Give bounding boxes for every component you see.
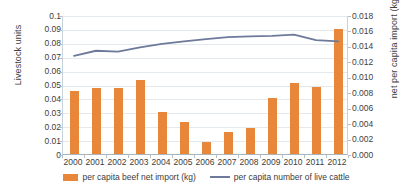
- plot-area: [62, 16, 348, 155]
- x-axis-tick-label: 2009: [260, 157, 282, 167]
- y-right-tick-label: 0.008: [352, 89, 398, 98]
- x-axis-tickmark: [216, 155, 217, 158]
- line-series: [63, 16, 349, 155]
- y-right-tick-label: 0.016: [352, 27, 398, 36]
- line-swatch-icon: [210, 176, 230, 178]
- x-axis-tick-label: 2000: [62, 157, 84, 167]
- y-left-tick-label: 0: [21, 151, 61, 160]
- legend-item-beef-import[interactable]: per capita beef net import (kg): [63, 172, 195, 182]
- x-axis-tick-label: 2006: [194, 157, 216, 167]
- x-axis-tickmark: [106, 155, 107, 158]
- x-axis-tickmark: [84, 155, 85, 158]
- x-axis-tickmark: [238, 155, 239, 158]
- y-right-tick-label: 0.018: [352, 12, 398, 21]
- y-left-tick-label: 0.07: [21, 53, 61, 62]
- y-right-tick-label: 0.014: [352, 42, 398, 51]
- y-right-tick-label: 0.012: [352, 58, 398, 67]
- y-left-tick-label: 0.01: [21, 137, 61, 146]
- legend-label-beef-import: per capita beef net import (kg): [82, 172, 195, 182]
- x-axis-tickmark: [194, 155, 195, 158]
- x-axis-tickmark: [260, 155, 261, 158]
- y-right-tick-label: 0.004: [352, 120, 398, 129]
- x-axis-tickmark: [172, 155, 173, 158]
- y-left-tick-label: 0.09: [21, 25, 61, 34]
- x-axis-tick-label: 2001: [84, 157, 106, 167]
- x-axis-tick-label: 2010: [282, 157, 304, 167]
- x-axis-tickmark: [282, 155, 283, 158]
- x-axis-tickmark: [62, 155, 63, 158]
- chart-legend: per capita beef net import (kg) per capi…: [0, 172, 413, 182]
- combo-chart: Livestock units net per capita import (k…: [0, 0, 413, 190]
- y-right-tick-label: 0.000: [352, 151, 398, 160]
- x-axis-tickmark: [326, 155, 327, 158]
- legend-label-live-cattle: per capita number of live cattle: [234, 172, 350, 182]
- x-axis-tickmark: [348, 155, 349, 158]
- x-axis-tickmark: [128, 155, 129, 158]
- legend-item-live-cattle[interactable]: per capita number of live cattle: [210, 172, 350, 182]
- x-axis-tick-label: 2005: [172, 157, 194, 167]
- y-right-tick-label: 0.002: [352, 135, 398, 144]
- x-axis-tickmark: [304, 155, 305, 158]
- x-axis-tick-label: 2002: [106, 157, 128, 167]
- bar-swatch-icon: [63, 174, 78, 181]
- y-left-tick-label: 0.1: [21, 12, 61, 21]
- x-axis-tickmark: [150, 155, 151, 158]
- x-axis-tick-label: 2007: [216, 157, 238, 167]
- y-left-tick-label: 0.02: [21, 123, 61, 132]
- x-axis-tick-label: 2008: [238, 157, 260, 167]
- x-axis-tick-label: 2011: [304, 157, 326, 167]
- y-right-tick-label: 0.006: [352, 104, 398, 113]
- x-axis-tick-label: 2012: [326, 157, 348, 167]
- y-left-tick-label: 0.03: [21, 109, 61, 118]
- x-axis-tick-label: 2003: [128, 157, 150, 167]
- y-right-tick-label: 0.010: [352, 73, 398, 82]
- y-left-tick-label: 0.05: [21, 81, 61, 90]
- y-left-tick-label: 0.06: [21, 67, 61, 76]
- y-left-tick-label: 0.04: [21, 95, 61, 104]
- x-axis-tick-label: 2004: [150, 157, 172, 167]
- live-cattle-line: [74, 35, 338, 56]
- y-left-tick-label: 0.08: [21, 39, 61, 48]
